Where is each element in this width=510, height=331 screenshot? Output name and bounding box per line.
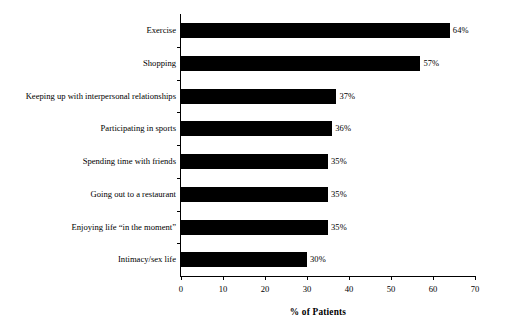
y-axis-tick [177,80,181,81]
bar-value-label: 36% [335,122,351,135]
category-label: Participating in sports [101,120,176,136]
bar-value-label: 57% [423,57,439,70]
category-label: Keeping up with interpersonal relationsh… [26,88,176,104]
bar-value-label: 35% [331,188,347,201]
chart-row: Shopping57% [181,47,475,80]
y-axis-tick [177,211,181,212]
bar-value-label: 64% [453,24,469,37]
bar [181,154,328,169]
category-label: Enjoying life “in the moment” [71,219,176,235]
y-axis-tick [177,112,181,113]
x-axis-tick [181,276,182,280]
bar-value-label: 30% [310,253,326,266]
bar [181,121,332,136]
chart-row: Enjoying life “in the moment”35% [181,211,475,244]
x-axis-tick [433,276,434,280]
x-axis-tick-label: 0 [179,283,183,295]
x-axis-tick-label: 40 [345,283,354,295]
y-axis-tick [177,145,181,146]
x-axis-title: % of Patients [0,307,510,317]
x-axis-line [180,276,476,277]
plot-area: Exercise64%Shopping57%Keeping up with in… [181,14,475,276]
bar [181,187,328,202]
x-axis-tick [475,276,476,280]
bar [181,23,450,38]
x-axis-title-text: % of Patients [290,307,346,317]
x-axis-tick-label: 10 [219,283,228,295]
chart-row: Intimacy/sex life30% [181,243,475,276]
y-axis-tick [177,178,181,179]
y-axis-tick [177,243,181,244]
category-label: Spending time with friends [83,153,176,169]
x-axis-tick-label: 50 [387,283,396,295]
bar [181,220,328,235]
category-label: Going out to a restaurant [91,186,176,202]
x-axis-tick-label: 20 [261,283,270,295]
x-axis-tick-label: 60 [429,283,438,295]
x-axis-tick-label: 70 [471,283,480,295]
bar [181,56,420,71]
category-label: Shopping [143,55,176,71]
bar-value-label: 37% [339,90,355,103]
chart-row: Going out to a restaurant35% [181,178,475,211]
bar [181,89,336,104]
chart-row: Keeping up with interpersonal relationsh… [181,80,475,113]
category-label: Exercise [146,22,176,38]
bar-chart: Exercise64%Shopping57%Keeping up with in… [0,0,510,331]
x-axis-tick [391,276,392,280]
bar [181,252,307,267]
chart-row: Participating in sports36% [181,112,475,145]
x-axis-tick-label: 30 [303,283,312,295]
x-axis-tick [349,276,350,280]
x-axis-tick [223,276,224,280]
bar-value-label: 35% [331,221,347,234]
category-label: Intimacy/sex life [118,251,176,267]
y-axis-tick [177,47,181,48]
x-axis-tick [307,276,308,280]
x-axis-tick [265,276,266,280]
chart-row: Spending time with friends35% [181,145,475,178]
chart-row: Exercise64% [181,14,475,47]
bar-value-label: 35% [331,155,347,168]
